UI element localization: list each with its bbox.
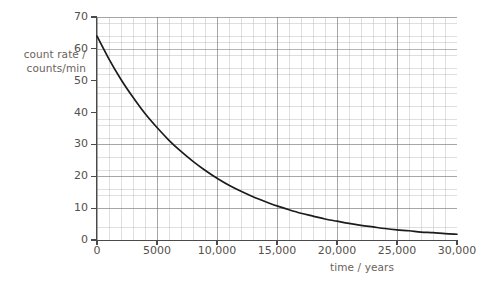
x-axis-tick bbox=[156, 240, 157, 245]
y-axis-tick-label: 10 bbox=[62, 202, 88, 213]
x-axis-tick bbox=[336, 240, 337, 245]
x-axis-tick-label: 30,000 bbox=[438, 245, 477, 256]
x-axis-tick-labels: 0500010,00015,00020,00025,00030,000 bbox=[0, 245, 482, 261]
x-axis-tick-label: 0 bbox=[94, 245, 101, 256]
x-axis-tick-label: 10,000 bbox=[198, 245, 237, 256]
decay-curve-path bbox=[97, 36, 457, 234]
y-axis-tick-label: 0 bbox=[62, 234, 88, 245]
x-axis-tick bbox=[96, 240, 97, 245]
decay-curve-plot bbox=[97, 17, 457, 240]
x-axis-tick-label: 15,000 bbox=[258, 245, 297, 256]
x-axis-tick bbox=[396, 240, 397, 245]
y-axis-tick-label: 40 bbox=[62, 107, 88, 118]
y-axis-tick-label: 30 bbox=[62, 138, 88, 149]
y-axis-tick-label: 60 bbox=[62, 43, 88, 54]
x-axis-tick bbox=[216, 240, 217, 245]
x-axis-tick-label: 5000 bbox=[143, 245, 171, 256]
y-axis-tick-label: 50 bbox=[62, 75, 88, 86]
x-axis-tick bbox=[456, 240, 457, 245]
y-axis-tick-label: 20 bbox=[62, 170, 88, 181]
y-axis-tick-label: 70 bbox=[62, 11, 88, 22]
x-axis-tick-label: 20,000 bbox=[318, 245, 357, 256]
decay-curve-chart: count rate / counts/min 010203040506070 … bbox=[0, 0, 482, 288]
x-axis-tick bbox=[276, 240, 277, 245]
x-axis-title: time / years bbox=[330, 261, 394, 273]
x-axis-tick-label: 25,000 bbox=[378, 245, 417, 256]
